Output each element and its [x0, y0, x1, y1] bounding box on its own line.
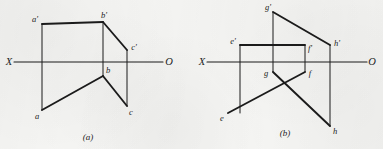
panel-a-caption: (a) [83, 133, 94, 142]
edge-b-c [103, 76, 127, 106]
label-g-prime: g' [265, 3, 271, 12]
projection-drawing [0, 0, 383, 149]
label-h: h [333, 127, 337, 136]
label-f-prime: f' [308, 44, 312, 53]
label-g: g [264, 69, 268, 78]
label-c-prime: c' [131, 43, 137, 52]
edge-bprime-cprime [103, 22, 127, 50]
edge-a-b [42, 76, 103, 110]
label-e: e [220, 114, 224, 123]
panel-b [207, 12, 367, 126]
panel-a [14, 22, 163, 110]
label-e-prime: e' [230, 37, 236, 46]
label-h-prime: h' [334, 39, 340, 48]
panel-a-axis-label-x: X [6, 57, 12, 68]
label-c: c [129, 108, 133, 117]
edge-g-h [273, 72, 330, 126]
edge-gprime-hprime [273, 12, 330, 45]
panel-b-axis-label-x: X [199, 57, 205, 68]
label-b: b [106, 66, 110, 75]
edge-aprime-bprime [42, 22, 103, 24]
panel-b-caption: (b) [280, 129, 291, 138]
panel-a-axis-label-o: O [165, 57, 173, 68]
figure-page: a' b' c' a b c X O (a) g' e' f' h' g f e… [0, 0, 383, 149]
label-f: f [309, 69, 311, 78]
label-a-prime: a' [32, 15, 38, 24]
panel-b-axis-label-o: O [368, 57, 376, 68]
label-b-prime: b' [101, 11, 107, 20]
label-a: a [35, 112, 39, 121]
